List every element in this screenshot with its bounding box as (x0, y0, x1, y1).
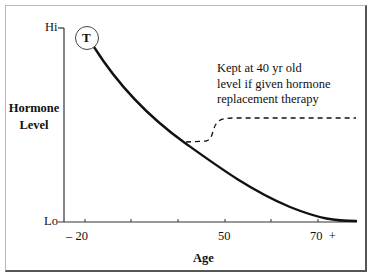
hrt-annotation: Kept at 40 yr old level if given hormone… (217, 61, 331, 108)
x-tick-label-50: 50 (218, 229, 231, 244)
y-axis-title: Hormone Level (6, 100, 62, 134)
x-axis-title: Age (193, 251, 214, 266)
x-tick-label-70: 70 + (310, 229, 336, 244)
hormone-replacement-dashed-line (186, 118, 356, 142)
y-axis-title-line2: Level (6, 117, 62, 134)
hrt-annotation-line1: Kept at 40 yr old (217, 61, 331, 77)
x-tick-label-20: – 20 (66, 229, 88, 244)
t-curve-label: T (82, 30, 91, 46)
hrt-annotation-line3: replacement therapy (217, 92, 331, 108)
y-axis-lo-label: Lo (44, 214, 58, 229)
y-axis-hi-label: Hi (45, 20, 58, 35)
hrt-annotation-line2: level if given hormone (217, 77, 331, 93)
y-axis-title-line1: Hormone (6, 100, 62, 117)
